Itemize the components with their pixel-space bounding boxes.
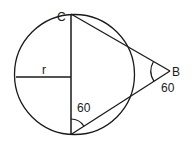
label-angle-b: 60	[161, 81, 175, 95]
label-angle-bottom: 60	[77, 101, 91, 115]
label-c: C	[57, 10, 66, 24]
label-b: B	[172, 65, 180, 79]
circle-tangent-diagram: C B r 60 60	[0, 0, 195, 142]
background	[0, 0, 195, 142]
label-r: r	[42, 63, 46, 77]
